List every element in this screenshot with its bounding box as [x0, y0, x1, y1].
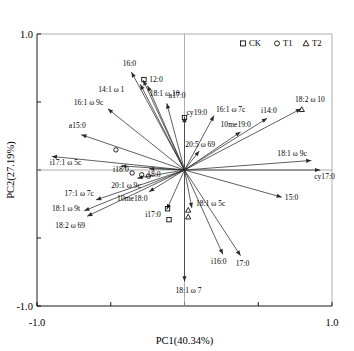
variable-label: i17:1 ω 5c — [50, 158, 82, 167]
vector-arrowhead — [84, 207, 90, 211]
variable-label: 18:2 ω 69 — [55, 221, 85, 230]
vector-arrowhead — [131, 72, 135, 78]
sample-marker-t1 — [130, 171, 134, 175]
vector-arrowhead — [276, 194, 282, 198]
variable-label: 17:0 — [236, 259, 250, 268]
y-axis-title: PC2(27.19%) — [5, 141, 17, 199]
vector-arrowhead — [87, 212, 93, 216]
variable-label: i17:0 — [145, 210, 161, 219]
variable-label: 18:1 ω 9t — [52, 204, 81, 213]
variable-label: i18:0 — [113, 165, 129, 174]
sample-marker-t2 — [186, 207, 191, 212]
variable-label: 18:0 — [147, 170, 161, 179]
variable-labels: 16:012:014:1 ω 118:1 ω 1016:1 ω 9ca17:0a… — [50, 59, 335, 294]
variable-label: 18:1 ω 9c — [277, 149, 307, 158]
legend-label-t1: T1 — [283, 38, 293, 48]
vector-arrowhead — [262, 118, 268, 123]
vector-arrowhead — [143, 80, 147, 86]
variable-label: 16:0 — [123, 59, 137, 68]
vector-arrowhead — [194, 151, 199, 156]
variable-label: 18:2 ω 10 — [295, 95, 325, 104]
legend: CKT1T2 — [241, 38, 322, 48]
vector-arrowhead — [306, 159, 311, 163]
loading-vector — [185, 170, 241, 256]
loading-vector — [185, 160, 312, 170]
legend-label-t2: T2 — [312, 38, 322, 48]
variable-label: 18:1 ω 7 — [175, 286, 201, 295]
variable-label: cy17:0 — [314, 172, 335, 181]
loading-vector — [185, 170, 282, 197]
x-tick-label-right: 1.0 — [325, 317, 338, 328]
loading-vector — [185, 132, 241, 170]
variable-label: i16:0 — [211, 257, 227, 266]
tick-labels: 1.0-1.0-1.01.0 — [16, 29, 338, 328]
legend-marker-t2 — [303, 40, 309, 45]
vector-arrowhead — [210, 116, 214, 122]
variable-label: 10me18:0 — [117, 194, 148, 203]
variable-label: 16:1 ω 7c — [216, 105, 246, 114]
variable-label: cy19:0 — [187, 108, 208, 117]
pca-biplot: 16:012:014:1 ω 118:1 ω 1016:1 ω 9ca17:0a… — [0, 0, 354, 351]
variable-label: 18:1 ω 5c — [196, 199, 226, 208]
variable-label: a17:0 — [169, 91, 186, 100]
x-tick-label-left: -1.0 — [29, 317, 46, 328]
variable-label: 15:0 — [285, 193, 299, 202]
variable-label: i14:0 — [261, 106, 277, 115]
variable-label: 20:5 ω 69 — [185, 140, 215, 149]
vector-arrowhead — [81, 134, 87, 138]
vector-arrowhead — [108, 109, 113, 114]
legend-label-ck: CK — [249, 38, 262, 48]
loading-vector — [108, 109, 185, 170]
variable-label: 16:1 ω 9c — [74, 98, 104, 107]
y-tick-label-bottom: -1.0 — [16, 301, 33, 312]
vector-arrowhead — [96, 196, 102, 200]
variable-label: 17:1 ω 7c — [65, 189, 95, 198]
vector-arrowhead — [219, 249, 223, 255]
sample-marker-t1 — [114, 148, 118, 152]
legend-marker-ck — [241, 41, 246, 46]
x-axis-title: PC1(40.34%) — [156, 335, 214, 347]
variable-label: 14:1 ω 1 — [98, 85, 124, 94]
y-tick-label-top: 1.0 — [20, 29, 33, 40]
variable-label: 20:1 ω 9c — [111, 181, 141, 190]
vector-arrowhead — [189, 203, 193, 209]
variable-label: a15:0 — [69, 121, 86, 130]
sample-marker-t2 — [186, 214, 191, 219]
variable-label: 12:0 — [149, 75, 163, 84]
biplot-canvas: 16:012:014:1 ω 118:1 ω 1016:1 ω 9ca17:0a… — [0, 0, 354, 351]
vector-arrowhead — [236, 250, 241, 256]
variable-label: 10me19:0 — [221, 120, 252, 129]
loading-vector — [84, 170, 184, 211]
vector-arrowhead — [149, 187, 155, 192]
vector-arrowhead — [166, 103, 170, 109]
legend-marker-t1 — [275, 41, 280, 46]
sample-marker-ck — [167, 217, 171, 221]
vector-arrowhead — [182, 276, 186, 281]
